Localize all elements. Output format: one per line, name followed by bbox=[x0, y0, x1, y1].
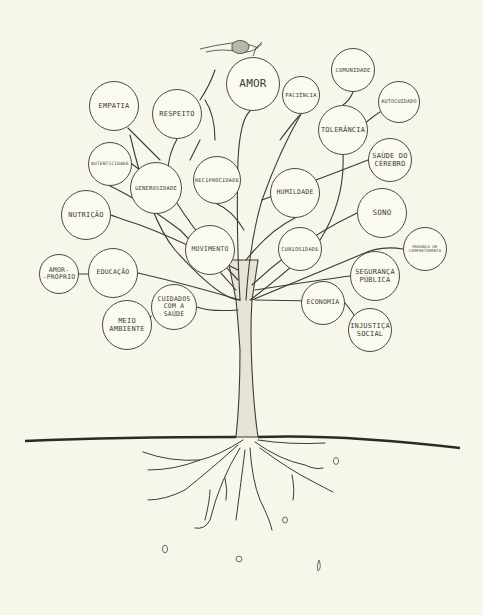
circle-label: MEIO AMBIENTE bbox=[109, 317, 144, 333]
circle-curiosidade: CURIOSIDADE bbox=[278, 227, 322, 271]
circle-label: COMUNIDADE bbox=[335, 67, 370, 73]
circle-empatia: EMPATIA bbox=[89, 81, 139, 131]
circle-label: CUIDADOS COM A SAÚDE bbox=[158, 296, 191, 318]
circle-saude-do-cerebro: SAÚDE DO CÉREBRO bbox=[368, 138, 412, 182]
circle-label: HUMILDADE bbox=[276, 189, 313, 196]
ground-line bbox=[25, 436, 460, 448]
circle-tolerancia: TOLERÂNCIA bbox=[318, 105, 368, 155]
circle-injustica-social: INJUSTIÇA SOCIAL bbox=[348, 308, 392, 352]
circle-comunidade: COMUNIDADE bbox=[331, 48, 375, 92]
circle-label: TOLERÂNCIA bbox=[321, 126, 365, 134]
circle-movimento: MOVIMENTO bbox=[185, 225, 235, 275]
circle-label: NUTRIÇÃO bbox=[68, 211, 103, 219]
circle-label: AUTOCUIDADO bbox=[381, 99, 416, 105]
tree-diagram: AMORPACIÊNCIACOMUNIDADEAUTOCUIDADOTOLERÂ… bbox=[0, 0, 483, 615]
circle-paciencia: PACIÊNCIA bbox=[282, 76, 320, 114]
circle-economia: ECONOMIA bbox=[301, 281, 345, 325]
circle-label: GENEROSIDADE bbox=[135, 185, 177, 191]
circle-cuidados-com-a-saude: CUIDADOS COM A SAÚDE bbox=[151, 284, 197, 330]
circle-amor: AMOR bbox=[226, 57, 280, 111]
circle-sono: SONO bbox=[357, 188, 407, 238]
nest-icon bbox=[200, 40, 262, 56]
circle-seguranca-publica: SEGURANÇA PÚBLICA bbox=[350, 251, 400, 301]
circle-label: AUTENTICIDADE bbox=[91, 161, 129, 166]
circle-label: SAÚDE DO CÉREBRO bbox=[372, 152, 407, 168]
circle-humildade: HUMILDADE bbox=[270, 168, 320, 218]
circle-label: EMPATIA bbox=[99, 102, 130, 110]
circle-label: RECIPROCIDADE bbox=[195, 177, 239, 183]
circle-meio-ambiente: MEIO AMBIENTE bbox=[102, 300, 152, 350]
circle-label: RESPEITO bbox=[159, 110, 194, 118]
circle-label: AMOR bbox=[239, 78, 266, 91]
roots bbox=[143, 440, 333, 530]
circle-educacao: EDUCAÇÃO bbox=[88, 248, 138, 298]
circle-autenticidade: AUTENTICIDADE bbox=[88, 142, 132, 186]
circle-mudanca-de-comportamento: MUDANÇA DE COMPORTAMENTO bbox=[403, 227, 447, 271]
circle-label: PACIÊNCIA bbox=[285, 92, 317, 98]
circle-label: AMOR- -PRÓPRIO bbox=[43, 267, 76, 282]
circle-respeito: RESPEITO bbox=[152, 89, 202, 139]
circle-label: CURIOSIDADE bbox=[281, 246, 318, 252]
circle-nutricao: NUTRIÇÃO bbox=[61, 190, 111, 240]
pebbles bbox=[163, 458, 339, 572]
circle-label: MOVIMENTO bbox=[191, 246, 228, 253]
circle-label: SEGURANÇA PÚBLICA bbox=[355, 268, 395, 284]
circle-label: MUDANÇA DE COMPORTAMENTO bbox=[409, 245, 441, 254]
circle-label: ECONOMIA bbox=[307, 299, 340, 306]
circle-amor-proprio: AMOR- -PRÓPRIO bbox=[39, 254, 79, 294]
circle-generosidade: GENEROSIDADE bbox=[130, 162, 182, 214]
circle-autocuidado: AUTOCUIDADO bbox=[378, 81, 420, 123]
circle-label: SONO bbox=[373, 209, 392, 218]
circle-label: INJUSTIÇA SOCIAL bbox=[350, 322, 390, 338]
circle-reciprocidade: RECIPROCIDADE bbox=[193, 156, 241, 204]
circle-label: EDUCAÇÃO bbox=[97, 269, 130, 276]
